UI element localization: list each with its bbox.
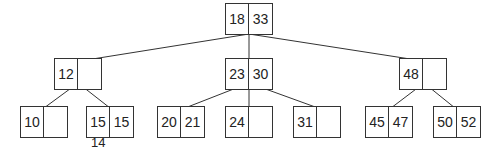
node-key: 20 (157, 106, 181, 138)
node-key: 31 (293, 106, 317, 138)
node-key: 50 (433, 106, 457, 138)
node-key: 23 (225, 58, 249, 90)
node-key: 33 (249, 3, 273, 35)
leaf-node-45-47: 45 47 (365, 106, 413, 138)
node-key (249, 106, 273, 138)
node-key: 24 (225, 106, 249, 138)
node-key (423, 58, 447, 90)
node-key: 15 (110, 106, 134, 138)
internal-node-12: 12 (54, 58, 102, 90)
leaf-node-31: 31 (293, 106, 341, 138)
node-key: 47 (389, 106, 413, 138)
node-key: 10 (20, 106, 44, 138)
node-key: 48 (399, 58, 423, 90)
node-key (317, 106, 341, 138)
leaf-node-15-15: 15 15 (86, 106, 134, 138)
leaf-node-24: 24 (225, 106, 273, 138)
leaf-node-50-52: 50 52 (433, 106, 481, 138)
leaf-node-20-21: 20 21 (157, 106, 205, 138)
node-key: 45 (365, 106, 389, 138)
node-key (44, 106, 68, 138)
node-key (78, 58, 102, 90)
node-key: 12 (54, 58, 78, 90)
leaf-node-10: 10 (20, 106, 68, 138)
node-key: 18 (225, 3, 249, 35)
internal-node-48: 48 (399, 58, 447, 90)
node-key: 21 (181, 106, 205, 138)
inserted-key-annotation: 14 (91, 135, 105, 150)
node-key: 52 (457, 106, 481, 138)
root-node: 18 33 (225, 3, 273, 35)
internal-node-23-30: 23 30 (225, 58, 273, 90)
node-key: 30 (249, 58, 273, 90)
struck-key: 15 (86, 106, 110, 138)
